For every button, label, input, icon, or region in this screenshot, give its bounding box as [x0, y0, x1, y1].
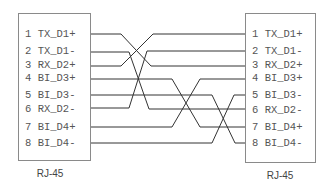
- wire-1-to-3: [91, 34, 245, 66]
- wire-5-to-8: [91, 95, 245, 143]
- wire-2-to-6: [91, 52, 245, 109]
- wire-8-to-5: [91, 95, 245, 143]
- crossover-wires: [0, 0, 331, 188]
- wire-3-to-1: [91, 34, 245, 66]
- wire-4-to-7: [91, 79, 245, 127]
- wire-7-to-4: [91, 79, 245, 127]
